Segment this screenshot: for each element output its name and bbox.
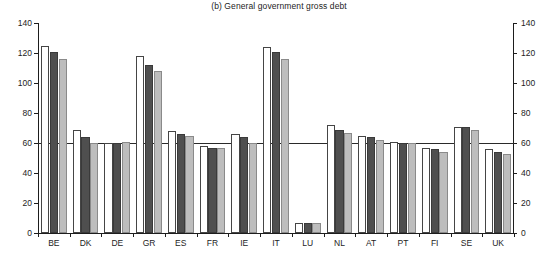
x-tick	[38, 233, 39, 237]
bar	[217, 148, 225, 234]
bar-group	[485, 23, 511, 233]
bar	[249, 143, 257, 233]
bar-group	[295, 23, 321, 233]
y-tick-left	[34, 113, 38, 114]
bar	[168, 131, 176, 233]
x-tick-label-ie: IE	[228, 239, 260, 248]
bar	[376, 140, 384, 233]
y-tick-left	[34, 203, 38, 204]
bar	[422, 148, 430, 234]
y-tick-left	[34, 53, 38, 54]
x-tick	[228, 233, 229, 237]
bar	[122, 142, 130, 234]
bar	[41, 46, 49, 234]
bar	[281, 59, 289, 233]
y-tick-label-right: 60	[521, 139, 530, 148]
y-tick-label-right: 80	[521, 109, 530, 118]
y-tick-label-right: 20	[521, 199, 530, 208]
bar-group	[454, 23, 480, 233]
bar	[344, 133, 352, 234]
x-tick-label-at: AT	[355, 239, 387, 248]
y-tick-label-left: 40	[23, 169, 32, 178]
bar-group	[263, 23, 289, 233]
y-tick-right	[513, 203, 517, 204]
x-tick	[70, 233, 71, 237]
bar	[50, 52, 58, 234]
bar	[454, 127, 462, 234]
bar	[81, 137, 89, 233]
x-tick	[324, 233, 325, 237]
bar-group	[168, 23, 194, 233]
bar	[431, 149, 439, 233]
x-tick-label-uk: UK	[482, 239, 514, 248]
bar-group	[41, 23, 67, 233]
y-tick-right	[513, 113, 517, 114]
bar	[145, 65, 153, 233]
x-tick-label-lu: LU	[292, 239, 324, 248]
bar	[154, 71, 162, 233]
x-tick-label-be: BE	[38, 239, 70, 248]
y-tick-label-right: 120	[521, 49, 535, 58]
y-tick-right	[513, 23, 517, 24]
y-tick-label-right: 0	[521, 229, 526, 238]
y-tick-label-left: 60	[23, 139, 32, 148]
x-tick	[387, 233, 388, 237]
bar	[399, 143, 407, 233]
bar	[358, 136, 366, 234]
bar	[208, 148, 216, 234]
bar	[272, 52, 280, 234]
y-tick-left	[34, 83, 38, 84]
x-tick-label-de: DE	[101, 239, 133, 248]
x-tick-label-fr: FR	[197, 239, 229, 248]
x-tick	[292, 233, 293, 237]
x-tick	[197, 233, 198, 237]
bar	[390, 142, 398, 234]
bar-group	[136, 23, 162, 233]
y-tick-right	[513, 83, 517, 84]
bar	[367, 137, 375, 233]
bar	[304, 223, 312, 234]
bar	[312, 223, 320, 234]
x-tick-label-se: SE	[451, 239, 483, 248]
y-tick-label-left: 0	[27, 229, 32, 238]
x-tick-label-nl: NL	[324, 239, 356, 248]
y-tick-label-left: 20	[23, 199, 32, 208]
y-tick-label-right: 140	[521, 19, 535, 28]
bar-group	[73, 23, 99, 233]
x-tick	[133, 233, 134, 237]
bar	[177, 134, 185, 233]
x-tick	[165, 233, 166, 237]
y-tick-right	[513, 53, 517, 54]
x-tick	[260, 233, 261, 237]
bar	[73, 130, 81, 234]
bar	[185, 136, 193, 234]
bar-group	[231, 23, 257, 233]
bar	[485, 149, 493, 233]
bar	[104, 143, 112, 233]
x-tick-label-pt: PT	[387, 239, 419, 248]
bar-group	[104, 23, 130, 233]
bar	[335, 130, 343, 234]
y-tick-label-left: 80	[23, 109, 32, 118]
bar-group	[358, 23, 384, 233]
bar	[231, 134, 239, 233]
bar	[494, 152, 502, 233]
x-axis-baseline	[38, 233, 514, 234]
y-tick-left	[34, 23, 38, 24]
x-tick	[514, 233, 515, 237]
x-tick	[419, 233, 420, 237]
bar	[503, 154, 511, 234]
y-tick-label-right: 100	[521, 79, 535, 88]
x-tick-label-gr: GR	[133, 239, 165, 248]
y-tick-left	[34, 173, 38, 174]
chart-title: (b) General government gross debt	[0, 1, 558, 11]
x-tick-label-fi: FI	[419, 239, 451, 248]
y-tick-right	[513, 173, 517, 174]
bar	[113, 143, 121, 233]
bar	[136, 56, 144, 233]
bar-group	[422, 23, 448, 233]
bar	[327, 125, 335, 233]
bar	[408, 143, 416, 233]
x-tick	[482, 233, 483, 237]
plot-area: 020406080100120140 020406080100120140 BE…	[38, 23, 514, 233]
